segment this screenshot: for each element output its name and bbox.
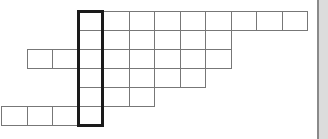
grid-cell[interactable] [78, 87, 105, 107]
grid-cell[interactable] [205, 49, 232, 69]
grid-cell[interactable] [129, 30, 156, 50]
grid-cell[interactable] [52, 106, 79, 126]
grid-cell[interactable] [103, 11, 130, 31]
grid-cell[interactable] [103, 30, 130, 50]
grid-cell[interactable] [78, 106, 105, 126]
grid-cell[interactable] [78, 30, 105, 50]
grid-cell[interactable] [282, 11, 309, 31]
grid-cell[interactable] [180, 49, 207, 69]
grid-cell[interactable] [1, 106, 28, 126]
grid-cell[interactable] [154, 49, 181, 69]
grid-cell[interactable] [154, 11, 181, 31]
grid-cell[interactable] [27, 106, 54, 126]
grid-cell[interactable] [180, 11, 207, 31]
grid-cell[interactable] [103, 87, 130, 107]
grid-cell[interactable] [78, 68, 105, 88]
grid-cell[interactable] [78, 49, 105, 69]
grid-cell[interactable] [103, 49, 130, 69]
grid-cell[interactable] [180, 68, 207, 88]
grid-cell[interactable] [154, 68, 181, 88]
grid-cell[interactable] [103, 68, 130, 88]
grid-cell[interactable] [205, 11, 232, 31]
grid-cell[interactable] [205, 30, 232, 50]
grid-cell[interactable] [52, 49, 79, 69]
puzzle-grid [0, 0, 317, 139]
vertical-scrollbar[interactable] [317, 0, 328, 139]
grid-cell[interactable] [78, 11, 105, 31]
grid-cell[interactable] [27, 49, 54, 69]
grid-cell[interactable] [256, 11, 283, 31]
grid-cell[interactable] [129, 87, 156, 107]
grid-cell[interactable] [129, 11, 156, 31]
grid-cell[interactable] [154, 30, 181, 50]
grid-cell[interactable] [180, 30, 207, 50]
grid-cell[interactable] [231, 11, 258, 31]
grid-cell[interactable] [129, 49, 156, 69]
grid-cell[interactable] [129, 68, 156, 88]
